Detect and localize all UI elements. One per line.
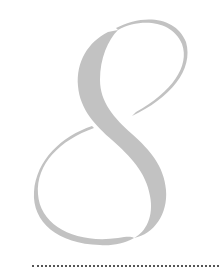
decorative-numeral-eight <box>0 0 219 250</box>
numeral-eight-icon <box>0 0 219 250</box>
dotted-divider <box>32 265 219 267</box>
